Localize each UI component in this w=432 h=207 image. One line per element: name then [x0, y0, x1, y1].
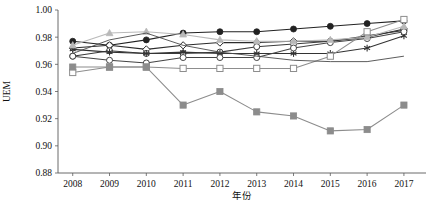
x-tick-label: 2017: [394, 179, 413, 189]
marker-open-square: [401, 16, 407, 22]
marker-filled-circle: [217, 29, 223, 35]
y-tick-label: 1.00: [35, 5, 52, 15]
y-axis-title: UEM: [2, 80, 12, 102]
x-tick-label: 2016: [358, 179, 377, 189]
marker-open-circle: [254, 55, 260, 61]
series-series-open-circle-lower: [70, 29, 407, 66]
marker-open-square: [254, 65, 260, 71]
y-tick-label: 0.96: [35, 60, 52, 70]
series-series-gray-square: [70, 64, 407, 134]
x-tick-label: 2011: [174, 179, 193, 189]
marker-open-square: [364, 29, 370, 35]
marker-open-circle: [401, 29, 407, 35]
marker-filled-circle: [254, 29, 260, 35]
x-tick-label: 2010: [137, 179, 156, 189]
series-line: [73, 20, 404, 73]
marker-filled-square: [217, 88, 223, 94]
marker-open-circle: [180, 55, 186, 61]
y-tick-label: 0.88: [35, 168, 52, 178]
marker-open-circle: [291, 45, 297, 51]
x-tick-label: 2009: [100, 179, 119, 189]
x-tick-label: 2013: [247, 179, 266, 189]
marker-filled-square: [143, 64, 149, 70]
marker-filled-square: [327, 128, 333, 134]
marker-open-circle: [107, 57, 113, 63]
marker-filled-circle: [291, 26, 297, 32]
series-series-asterisk: [70, 32, 407, 56]
marker-open-circle: [254, 44, 260, 50]
marker-filled-circle: [364, 21, 370, 27]
marker-filled-square: [290, 113, 296, 119]
marker-filled-triangle: [400, 23, 407, 29]
marker-filled-circle: [143, 37, 149, 43]
marker-open-square: [290, 65, 296, 71]
marker-open-square: [327, 53, 333, 59]
marker-open-square: [180, 65, 186, 71]
y-tick-label: 0.90: [35, 141, 52, 151]
chart-figure: 0.880.900.920.940.960.981.00200820092010…: [0, 0, 432, 207]
x-tick-label: 2008: [63, 179, 82, 189]
marker-filled-square: [180, 102, 186, 108]
series-line: [73, 32, 404, 63]
marker-filled-square: [70, 64, 76, 70]
x-tick-label: 2015: [321, 179, 340, 189]
marker-open-square: [217, 65, 223, 71]
marker-filled-square: [364, 126, 370, 132]
marker-filled-square: [106, 64, 112, 70]
marker-open-circle: [70, 53, 76, 59]
x-tick-label: 2012: [210, 179, 229, 189]
y-tick-label: 0.98: [35, 33, 52, 43]
marker-open-circle: [217, 55, 223, 61]
marker-filled-square: [401, 102, 407, 108]
y-tick-label: 0.92: [35, 114, 52, 124]
x-tick-label: 2014: [284, 179, 303, 189]
chart-axes: [58, 10, 426, 173]
marker-filled-circle: [327, 23, 333, 29]
marker-filled-square: [254, 109, 260, 115]
chart-canvas: 0.880.900.920.940.960.981.00200820092010…: [0, 0, 432, 207]
y-tick-label: 0.94: [35, 87, 52, 97]
x-axis-title: 年份: [232, 190, 252, 201]
series-line: [73, 67, 404, 131]
